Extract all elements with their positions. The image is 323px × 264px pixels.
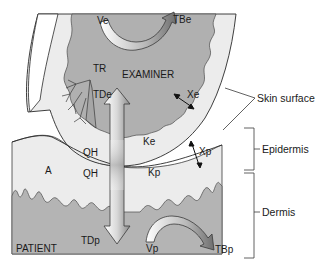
label-epidermis: Epidermis [262,143,309,155]
label-patient: PATIENT [16,243,57,254]
label-tdp: TDp [81,235,100,246]
thermal-contact-diagram: Ve TBe TR EXAMINER TDe Xe Ke QH A QH Kp … [0,0,323,264]
label-kp: Kp [148,167,161,178]
label-tbp: TBp [215,244,234,255]
label-vp: Vp [146,243,159,254]
label-tr: TR [93,63,106,74]
label-dermis: Dermis [262,206,295,218]
epidermis-bracket [244,128,260,170]
label-ke: Ke [143,136,156,147]
label-a: A [45,165,52,176]
dermis-bracket [244,173,260,258]
label-tde: TDe [93,89,112,100]
label-qh-bottom: QH [83,168,98,179]
label-xp: Xp [199,146,212,157]
label-skin-surface: Skin surface [257,92,315,104]
skin-surface-pointer [223,88,255,130]
label-qh-top: QH [83,147,98,158]
label-xe: Xe [187,89,200,100]
label-ve: Ve [97,15,109,26]
label-tbe: TBe [173,14,192,25]
label-examiner: EXAMINER [122,69,174,80]
